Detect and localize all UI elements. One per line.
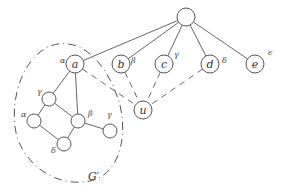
node-label-c: c — [161, 58, 167, 71]
node-label-e: e — [252, 58, 259, 71]
solid-edges — [38, 21, 248, 140]
edge-g3-g4 — [85, 123, 104, 129]
node-label-a: a — [72, 58, 79, 71]
dashed-edge-a-u — [82, 69, 135, 105]
edge-root-a — [83, 21, 177, 61]
node-g2 — [27, 114, 41, 128]
greek-label-g1: γ — [37, 87, 42, 96]
dashed-edge-d-u — [150, 69, 202, 105]
node-label-u: u — [139, 104, 146, 117]
subgraph-label: G′ — [88, 170, 100, 183]
edge-a-g1 — [53, 71, 69, 93]
edge-root-d — [190, 25, 206, 56]
greek-label-g5: δ — [51, 146, 56, 155]
nodes: aαbβcγdδeϵuγαβγδ — [21, 8, 273, 155]
greek-label-g4: γ — [107, 110, 112, 119]
greek-label-a: α — [60, 56, 66, 65]
greek-label-e: ϵ — [268, 48, 273, 57]
graph-diagram: aαbβcγdδeϵuγαβγδ G′ — [0, 0, 284, 191]
dashed-edge-c-u — [147, 72, 161, 102]
node-label-b: b — [117, 58, 124, 71]
edge-root-e — [193, 22, 247, 59]
edge-g2-g5 — [40, 125, 59, 139]
dashed-edges — [82, 69, 202, 105]
node-g5 — [57, 137, 71, 151]
dashed-edge-b-u — [125, 72, 139, 102]
edge-g3-g5 — [68, 127, 75, 138]
edge-g1-g3 — [55, 103, 73, 117]
node-g3 — [71, 114, 85, 128]
edge-a-g3 — [75, 73, 77, 114]
edge-g1-g2 — [38, 105, 45, 115]
edge-root-b — [128, 22, 178, 58]
greek-label-g3: β — [87, 109, 93, 118]
node-g1 — [42, 92, 56, 106]
node-root — [177, 8, 195, 26]
greek-label-b: β — [130, 56, 136, 65]
greek-label-c: γ — [174, 50, 179, 59]
greek-label-d: δ — [222, 56, 227, 65]
node-label-d: d — [206, 58, 213, 71]
greek-label-g2: α — [21, 110, 27, 119]
node-g4 — [103, 124, 117, 138]
